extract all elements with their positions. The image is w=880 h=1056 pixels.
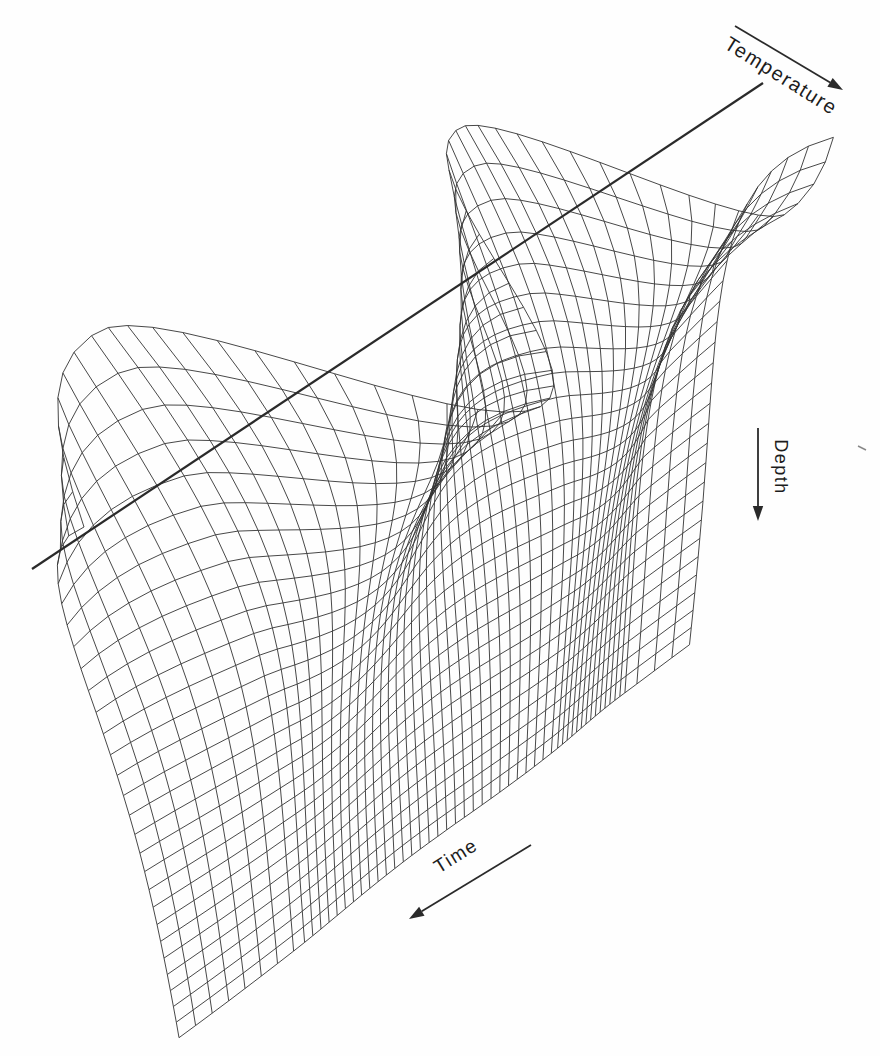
- surface-plot: [0, 0, 880, 1056]
- constant-time-lines: [57, 125, 833, 1037]
- time-axis-arrow-head: [409, 907, 425, 919]
- depth-axis-arrow-head: [753, 506, 763, 521]
- depth-axis-label: Depth: [770, 439, 791, 495]
- temperature-depth-time-figure: Temperature Depth Time: [0, 0, 880, 1056]
- depth-axis-arrow: [753, 428, 763, 521]
- stray-mark: [858, 446, 866, 450]
- temperature-axis-arrow-head: [827, 78, 843, 90]
- wireframe-mesh: [57, 125, 833, 1037]
- scan-artifact-tick: [858, 446, 866, 450]
